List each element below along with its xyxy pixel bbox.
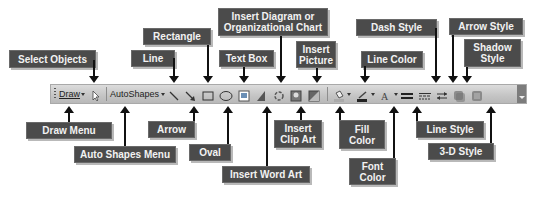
insert-clip-art-icon[interactable]	[290, 88, 302, 100]
arrowhead	[239, 76, 249, 83]
label-draw-menu: Draw Menu	[26, 122, 112, 139]
line-icon[interactable]	[168, 88, 180, 100]
connector	[124, 112, 126, 148]
arrowhead	[203, 76, 213, 83]
arrowhead	[276, 76, 286, 83]
insert-word-art-icon[interactable]	[255, 88, 267, 100]
autoshapes-menu-label: AutoShapes	[110, 89, 159, 99]
label-arrow-style: Arrow Style	[449, 18, 523, 35]
arrowhead	[360, 76, 370, 83]
toolbar-separator	[106, 87, 107, 101]
font-color-icon[interactable]: A	[379, 88, 391, 100]
connector	[452, 35, 454, 78]
chevron-down-icon[interactable]	[371, 93, 375, 96]
svg-text:A: A	[381, 91, 389, 102]
label-dash-style: Dash Style	[356, 19, 437, 36]
label-select-objects: Select Objects	[9, 50, 96, 68]
label-line-color: Line Color	[361, 51, 423, 68]
dash-style-icon[interactable]	[419, 88, 431, 100]
arrowhead	[169, 76, 179, 83]
drawing-toolbar: Draw AutoShapes A	[50, 84, 527, 104]
label-insert-diagram: Insert Diagram or Organizational Chart	[218, 8, 328, 36]
draw-menu-button[interactable]: Draw	[59, 88, 80, 100]
toolbar-grip-handle[interactable]	[54, 88, 56, 100]
insert-diagram-icon[interactable]	[273, 88, 285, 100]
label-oval: Oval	[189, 144, 231, 161]
toolbar-separator	[327, 87, 328, 101]
shadow-style-icon[interactable]	[453, 88, 465, 100]
chevron-down-icon[interactable]	[394, 93, 398, 96]
connector	[266, 112, 268, 168]
arrowhead	[312, 76, 322, 83]
connector	[173, 58, 175, 78]
line-style-icon[interactable]	[401, 88, 413, 100]
label-rectangle: Rectangle	[143, 28, 211, 45]
label-3d-style: 3-D Style	[428, 143, 494, 160]
arrow-style-icon[interactable]	[436, 88, 448, 100]
arrowhead	[431, 76, 441, 83]
draw-menu-label: Draw	[59, 89, 80, 99]
arrow-icon[interactable]	[184, 88, 196, 100]
line-color-icon[interactable]	[356, 88, 368, 100]
toolbar-options-button[interactable]	[517, 85, 526, 103]
fill-color-icon[interactable]	[333, 88, 345, 100]
label-text-box: Text Box	[219, 50, 274, 67]
label-line: Line	[131, 50, 175, 67]
chevron-down-icon[interactable]	[347, 93, 351, 96]
label-font-color: Font Color	[349, 158, 396, 185]
label-auto-shapes-menu: Auto Shapes Menu	[74, 146, 176, 163]
label-insert-picture: Insert Picture	[296, 41, 336, 68]
3d-style-icon[interactable]	[471, 88, 483, 100]
label-shadow-style: Shadow Style	[464, 39, 521, 67]
autoshapes-menu-button[interactable]: AutoShapes	[110, 88, 159, 100]
label-line-style: Line Style	[416, 121, 484, 138]
arrowhead	[448, 76, 458, 83]
rectangle-icon[interactable]	[202, 88, 214, 100]
label-insert-clip-art: Insert Clip Art	[274, 120, 322, 148]
insert-picture-icon[interactable]	[308, 88, 320, 100]
chevron-down-icon	[81, 93, 85, 96]
connector	[393, 112, 395, 160]
text-box-icon[interactable]	[238, 88, 250, 100]
arrowhead	[89, 76, 99, 83]
connector	[435, 28, 437, 78]
connector	[280, 36, 282, 78]
connector	[227, 112, 229, 146]
arrowhead	[462, 76, 472, 83]
chevron-down-icon	[161, 93, 165, 96]
oval-icon[interactable]	[219, 88, 233, 100]
connector	[207, 45, 209, 78]
label-insert-word-art: Insert Word Art	[222, 166, 310, 183]
connector	[490, 112, 492, 144]
label-arrow: Arrow	[148, 121, 195, 138]
select-objects-icon[interactable]	[90, 88, 102, 100]
label-fill-color: Fill Color	[339, 120, 385, 149]
